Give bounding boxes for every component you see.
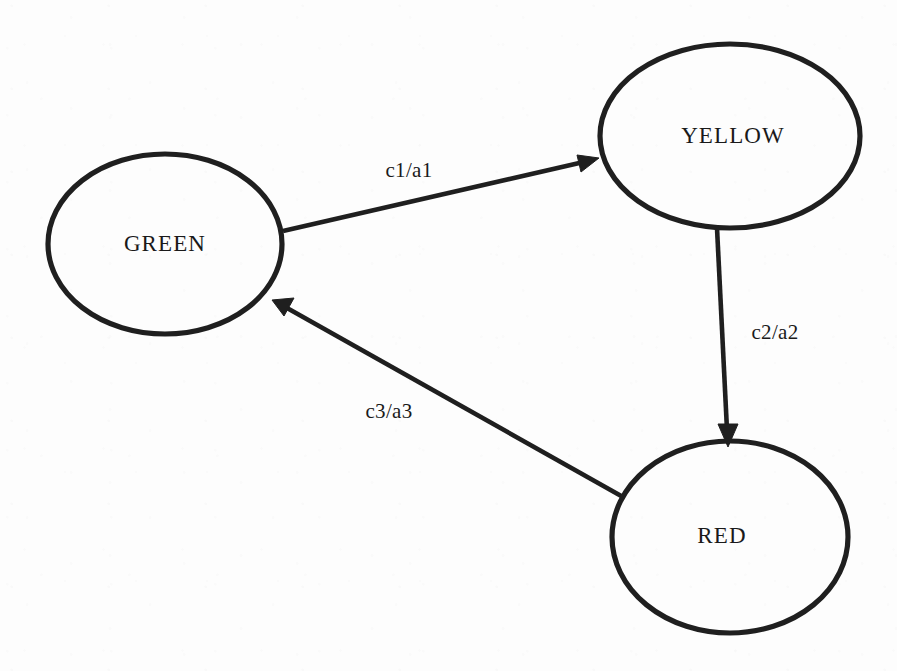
transition-line-t2	[717, 228, 727, 430]
transition-yellow-to-red[interactable]: c2/a2	[717, 228, 798, 447]
state-node-red[interactable]: RED	[612, 441, 848, 633]
arrowhead-into-yellow	[577, 155, 599, 172]
transition-red-to-green[interactable]: c3/a3	[272, 298, 623, 497]
state-label-green: GREEN	[124, 231, 206, 256]
transition-label-t3: c3/a3	[366, 399, 413, 423]
state-node-yellow[interactable]: YELLOW	[600, 44, 860, 228]
transition-green-to-yellow[interactable]: c1/a1	[283, 155, 599, 231]
diagram-canvas: c1/a1 c2/a2 c3/a3 GREEN YELLOW RED	[0, 0, 897, 671]
state-node-green[interactable]: GREEN	[48, 154, 282, 334]
arrowhead-into-green	[272, 298, 294, 316]
state-label-red: RED	[697, 523, 746, 548]
transition-label-t2: c2/a2	[752, 320, 799, 344]
transition-label-t1: c1/a1	[386, 158, 433, 182]
transition-line-t1	[283, 161, 588, 231]
transition-line-t3	[287, 308, 623, 497]
state-diagram: c1/a1 c2/a2 c3/a3 GREEN YELLOW RED	[0, 0, 897, 671]
state-label-yellow: YELLOW	[681, 123, 785, 148]
